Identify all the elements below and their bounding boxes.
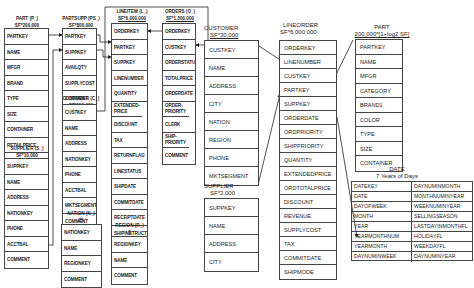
field: SIZE (356, 142, 402, 157)
field: MONTHNUMINYEAR (412, 192, 472, 201)
orders-table-title: ORDERS (O_) SF*1,500,000 (160, 8, 200, 22)
table-lineorder: ORDERKEY LINENUMBER CUSTKEY PARTKEY SUPP… (279, 40, 337, 280)
field: DISCOUNT (112, 117, 147, 133)
field: SUPPLYCOST (63, 76, 96, 92)
lineorder-cardinality: SF*6,000,000 (280, 29, 340, 36)
nation-table-title: NATION (N_) 25 (60, 210, 102, 224)
part-title: PART (P_) (4, 15, 50, 22)
region-cardinality: 5 (111, 229, 148, 236)
date-row: DATEKEYDAYNUMINMONTH (352, 182, 472, 192)
field: PARTKEY (63, 29, 96, 45)
field: SUPPKEY (5, 159, 48, 175)
field: NAME (112, 253, 147, 269)
field: COMMENT (112, 268, 147, 284)
ssb-supplier-cardinality: SF*2,000 (204, 190, 258, 197)
field: COMMENT (163, 148, 195, 164)
field: QUANTITY (112, 86, 147, 102)
field: YEARMONTH (352, 242, 412, 251)
date-row: YEARMONTHNUMHOLIDAYFL (352, 232, 472, 242)
field: RETURNFLAG (112, 148, 147, 164)
field: ORDPRIORITY (280, 125, 336, 139)
field: CITY (205, 253, 258, 271)
field: REGIONKEY (112, 237, 147, 253)
date-cardinality: 7 Years of Days (352, 173, 442, 180)
customer-tpch-title: CUSTOMER (C_) (60, 95, 102, 102)
field: ORDERKEY (280, 41, 336, 55)
table-ssb-customer: CUSTKEY NAME ADDRESS CITY NATION REGION … (204, 40, 259, 186)
field: PARTKEY (5, 29, 48, 45)
field: BRAND1 (356, 98, 402, 113)
field: MFGR (356, 69, 402, 84)
field: DISCOUNT (280, 195, 336, 209)
field: COMMITDATE (112, 195, 147, 211)
ssb-part-title: PART (352, 24, 412, 31)
table-supplier-tpch: SUPPKEY NAME ADDRESS NATIONKEY PHONE ACC… (4, 158, 49, 269)
field: ACCTBAL (63, 183, 96, 199)
date-row: DATEMONTHNUMINYEAR (352, 192, 472, 202)
field: SUPPKEY (63, 45, 96, 61)
field: YEARMONTHNUM (352, 232, 412, 241)
field: SELLINGSEASON (412, 212, 472, 221)
field: CONTAINER (5, 122, 48, 138)
ssb-supplier-table-title: SUPPLIER SF*2,000 (204, 183, 258, 197)
date-row: YEARLASTDAYINMONTHFL (352, 222, 472, 232)
field: CUSTKEY (280, 69, 336, 83)
field: SHIP-PRIORITY (163, 133, 189, 149)
field: SUPPLYCOST (280, 223, 336, 237)
lineorder-table-title: LINEORDER SF*6,000,000 (280, 22, 340, 36)
date-table-title: DATE 7 Years of Days (352, 166, 442, 180)
field: LINESTATUS (112, 164, 147, 180)
field: PHONE (5, 221, 48, 237)
field: SIZE (5, 107, 48, 123)
field: TAX (112, 133, 147, 149)
field: SHIPPRIORITY (280, 139, 336, 153)
field: ORDTOTALPRICE (280, 181, 336, 195)
field: DATE (352, 192, 412, 201)
field: TAX (280, 237, 336, 251)
field: REGIONKEY (62, 256, 101, 272)
field: PARTKEY (356, 40, 402, 55)
field: SHIPMODE (280, 265, 336, 279)
field: NAME (5, 175, 48, 191)
field: PHONE (205, 149, 258, 167)
field: DAYOFWEEK (352, 202, 412, 211)
date-row: YEARMONTHWEEKDAYFL (352, 242, 472, 252)
field: DATEKEY (352, 182, 412, 191)
part-table-title: PART (P_) SF*200,000 (4, 15, 50, 29)
field: NAME (5, 45, 48, 61)
field: CUSTKEY (205, 41, 258, 59)
field: WEEKNUMINYEAR (412, 202, 472, 211)
nation-title: NATION (N_) (60, 210, 102, 217)
field: PARTKEY (112, 40, 147, 56)
field: EXTENDED-PRICE (112, 102, 142, 118)
field: NATIONKEY (5, 206, 48, 222)
field: DAYNUMINWEEK (352, 252, 412, 262)
orders-cardinality: SF*1,500,000 (160, 15, 200, 22)
field: AVAILQTY (63, 60, 96, 76)
field: ADDRESS (5, 190, 48, 206)
field: REVENUE (280, 209, 336, 223)
date-row: DAYNUMINWEEKDAYNUMINYEAR (352, 252, 472, 262)
supplier-tpch-table-title: SUPPLIER (S_) SF*10,000 (6, 145, 48, 159)
field: QUANTITY (280, 153, 336, 167)
field: LINENUMBER (112, 71, 147, 87)
field: NAME (205, 59, 258, 77)
field: CLERK (163, 117, 195, 133)
region-table-title: REGION (R_) 5 (111, 222, 148, 236)
lineitem-cardinality: SF*6,000,000 (112, 15, 152, 22)
field: COLOR (356, 113, 402, 128)
ssb-part-cardinality: 200,000*[1+log2 SF] (352, 31, 412, 38)
table-date: DATEKEYDAYNUMINMONTH DATEMONTHNUMINYEAR … (351, 181, 473, 261)
field: HOLIDAYFL (412, 232, 472, 241)
partsupp-table-title: PARTSUPP (PS_) SF*800,000 (60, 15, 102, 29)
table-ssb-part: PARTKEY NAME MFGR CATEGORY BRAND1 COLOR … (355, 39, 403, 172)
field: SUPPKEY (205, 199, 258, 217)
ssb-customer-table-title: CUSTOMER SF*30,000 (204, 25, 258, 39)
field: COMMITDATE (280, 251, 336, 265)
field: ADDRESS (205, 235, 258, 253)
field: NATION (205, 113, 258, 131)
field: ADDRESS (205, 77, 258, 95)
field: NAME (63, 121, 96, 137)
field: LINENUMBER (280, 55, 336, 69)
field: NATIONKEY (63, 152, 96, 168)
